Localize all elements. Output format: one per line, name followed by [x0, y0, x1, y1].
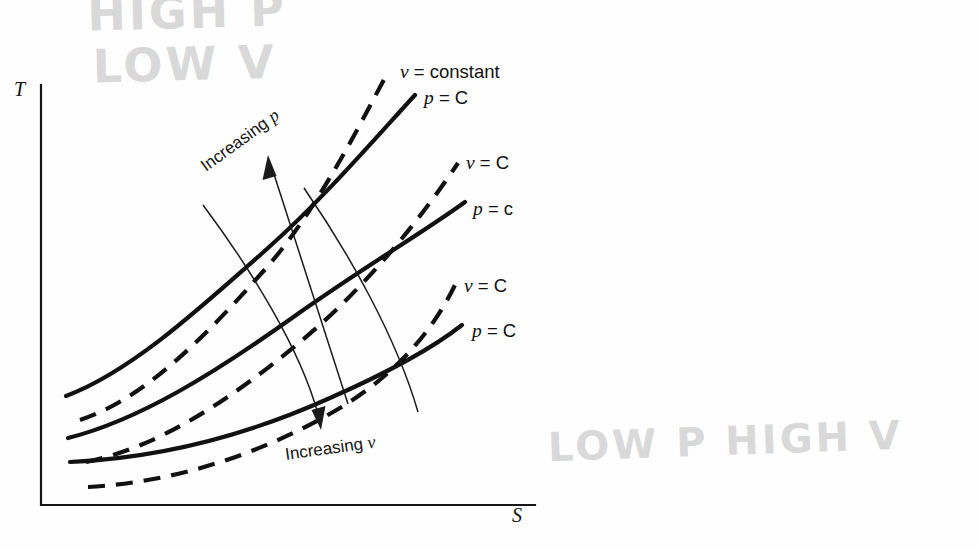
curve-p-C-bottom: [70, 325, 462, 462]
label-v-C-middle: v = C: [466, 152, 509, 173]
label-p-c-middle-var: p: [471, 198, 483, 219]
curve-labels-group: v = constant p = C v = C p = c v = C p =…: [400, 61, 516, 341]
curve-pair-middle: [68, 163, 465, 462]
label-p-C-bottom-rest: = C: [482, 320, 516, 341]
axis-lines: [41, 85, 535, 505]
label-p-C-bottom-var: p: [470, 320, 482, 341]
label-v-C-bottom-var: v: [464, 275, 473, 296]
diagram-canvas: T S v = constant p = C: [0, 0, 978, 549]
label-v-constant-top-var: v: [400, 61, 409, 82]
increasing-p-label-prefix: Increasing: [197, 111, 275, 175]
increasing-v-arrowhead: [312, 406, 326, 430]
increasing-v-label-prefix: Increasing: [284, 434, 369, 464]
label-p-c-middle: p = c: [471, 198, 513, 219]
ts-diagram-figure: HIGH P LOW V LOW P HIGH V T S: [0, 0, 978, 549]
label-p-C-top-var: p: [422, 87, 434, 108]
label-v-C-bottom-rest: = C: [473, 275, 507, 296]
label-v-C-middle-rest: = C: [475, 152, 509, 173]
curve-v-C-middle: [86, 163, 458, 462]
entropy-axis-label: S: [512, 504, 522, 526]
label-v-C-middle-var: v: [466, 152, 475, 173]
curve-pair-top: [66, 72, 415, 420]
label-v-constant-top: v = constant: [400, 61, 500, 82]
increasing-v-label-var: v: [366, 431, 377, 452]
guide-lines-group: [203, 155, 418, 430]
label-p-C-top-rest: = C: [434, 87, 468, 108]
increasing-v-label: Increasing v: [284, 431, 377, 463]
label-p-C-top: p = C: [422, 87, 468, 108]
label-v-C-bottom: v = C: [464, 275, 507, 296]
label-p-c-middle-rest: = c: [483, 198, 513, 219]
label-p-C-bottom: p = C: [470, 320, 516, 341]
temperature-axis-label: T: [14, 78, 27, 100]
label-v-constant-top-rest: = constant: [409, 61, 500, 82]
increasing-p-arrowhead: [263, 155, 277, 180]
curve-pair-bottom: [70, 285, 462, 487]
